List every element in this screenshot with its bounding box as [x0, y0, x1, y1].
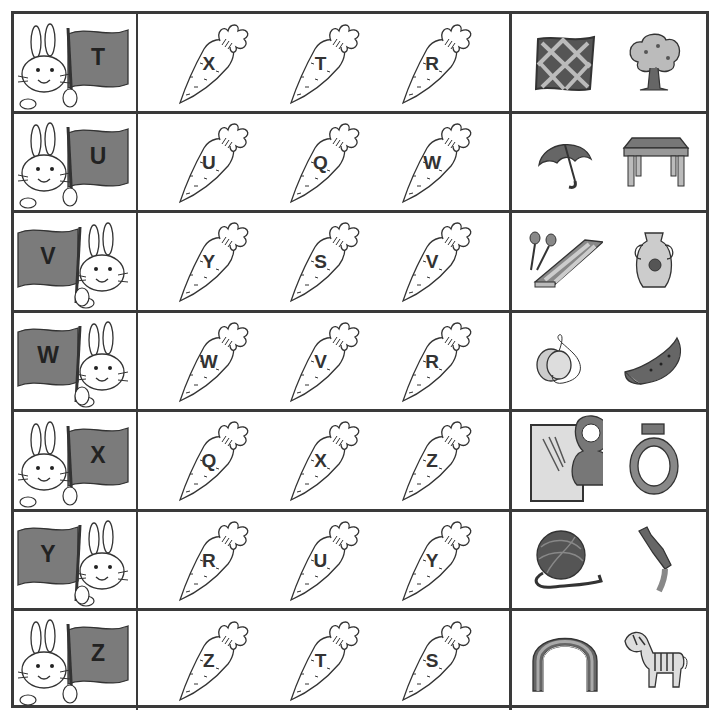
flag-letter: Y [28, 541, 68, 568]
pictures-cell [512, 113, 706, 210]
carrots-cell: U Q W [138, 113, 512, 210]
carrot-choice[interactable]: Y [172, 217, 252, 305]
pictures-cell [512, 14, 706, 111]
carrots-cell: Z T S [138, 610, 512, 710]
carrot-letter: U [194, 152, 224, 174]
worksheet-row: U U Q W [14, 113, 706, 213]
carrot-letter: Z [417, 450, 447, 472]
flag-letter: X [78, 442, 118, 469]
ring-icon[interactable] [616, 420, 692, 500]
carrot-choice[interactable]: Z [172, 616, 252, 704]
umbrella-icon[interactable] [527, 122, 603, 202]
carrot-letter: Q [194, 450, 224, 472]
pictures-cell [512, 312, 706, 409]
carrots-cell: Y S V [138, 213, 512, 310]
flag-letter: U [78, 143, 118, 170]
worksheet-row: T X T R [14, 14, 706, 114]
carrot-choice[interactable]: Q [172, 416, 252, 504]
carrot-letter: X [305, 450, 335, 472]
bunny-flag-cell: Z [14, 610, 138, 710]
carrot-letter: T [305, 53, 335, 75]
worksheet-row: Y R U Y [14, 511, 706, 611]
yo-yo-icon[interactable] [527, 321, 603, 401]
carrot-choice[interactable]: R [172, 516, 252, 604]
carrots-cell: W V R [138, 312, 512, 409]
carrot-letter: Y [417, 550, 447, 572]
flag-letter: T [78, 44, 118, 71]
worksheet-grid: T X T R U U Q W V Y S V [11, 11, 709, 708]
carrot-letter: Q [305, 152, 335, 174]
bunny-flag-cell: T [14, 14, 138, 111]
worksheet-row: V Y S V [14, 213, 706, 313]
carrot-letter: W [194, 351, 224, 373]
carrot-letter: R [417, 351, 447, 373]
bunny-with-flag-icon [14, 113, 138, 210]
worksheet-row: Z Z T S [14, 610, 706, 710]
bunny-with-flag-icon [14, 14, 138, 111]
bunny-flag-cell: W [14, 312, 138, 409]
carrot-choice[interactable]: V [283, 317, 363, 405]
carrot-choice[interactable]: V [395, 217, 475, 305]
bunny-with-flag-icon [14, 412, 138, 509]
table-icon[interactable] [616, 122, 692, 202]
bunny-flag-cell: X [14, 412, 138, 509]
carrot-choice[interactable]: S [395, 616, 475, 704]
carrot-choice[interactable]: Q [283, 118, 363, 206]
carrot-letter: R [194, 550, 224, 572]
carrot-letter: V [305, 351, 335, 373]
worksheet-row: W W V R [14, 312, 706, 412]
carrot-choice[interactable]: Y [395, 516, 475, 604]
carrots-cell: X T R [138, 14, 512, 111]
pictures-cell [512, 511, 706, 608]
carrot-letter: S [417, 650, 447, 672]
xylophone-icon[interactable] [527, 221, 603, 301]
flag-letter: W [28, 342, 68, 369]
carrot-choice[interactable]: T [283, 19, 363, 107]
carrot-choice[interactable]: W [395, 118, 475, 206]
worksheet-row: X Q X Z [14, 412, 706, 512]
bunny-flag-cell: V [14, 213, 138, 310]
carrot-choice[interactable]: Z [395, 416, 475, 504]
pictures-cell [512, 412, 706, 509]
carrots-cell: R U Y [138, 511, 512, 608]
carrot-letter: X [194, 53, 224, 75]
carrot-choice[interactable]: X [172, 19, 252, 107]
carrot-letter: R [417, 53, 447, 75]
carrot-choice[interactable]: S [283, 217, 363, 305]
carrot-choice[interactable]: U [283, 516, 363, 604]
yarn-icon[interactable] [527, 520, 603, 600]
pictures-cell [512, 213, 706, 310]
carrot-choice[interactable]: T [283, 616, 363, 704]
rainbow-icon[interactable] [527, 620, 603, 700]
carrot-letter: S [305, 251, 335, 273]
carrot-choice[interactable]: W [172, 317, 252, 405]
carrot-choice[interactable]: U [172, 118, 252, 206]
zipper-icon[interactable] [616, 520, 692, 600]
pictures-cell [512, 610, 706, 710]
watermelon-icon[interactable] [616, 321, 692, 401]
bunny-flag-cell: Y [14, 511, 138, 608]
tree-icon[interactable] [616, 23, 692, 103]
carrot-letter: T [305, 650, 335, 672]
flag-letter: Z [78, 640, 118, 667]
carrots-cell: Q X Z [138, 412, 512, 509]
quilt-icon[interactable] [527, 23, 603, 103]
carrot-letter: W [417, 152, 447, 174]
flag-letter: V [28, 243, 68, 270]
bunny-with-flag-icon [14, 610, 138, 707]
carrot-choice[interactable]: X [283, 416, 363, 504]
carrot-choice[interactable]: R [395, 19, 475, 107]
x-ray-icon[interactable] [527, 420, 603, 500]
zebra-icon[interactable] [616, 620, 692, 700]
carrot-letter: Y [194, 251, 224, 273]
carrot-choice[interactable]: R [395, 317, 475, 405]
vase-icon[interactable] [616, 221, 692, 301]
bunny-flag-cell: U [14, 113, 138, 210]
carrot-letter: U [305, 550, 335, 572]
carrot-letter: Z [194, 650, 224, 672]
carrot-letter: V [417, 251, 447, 273]
